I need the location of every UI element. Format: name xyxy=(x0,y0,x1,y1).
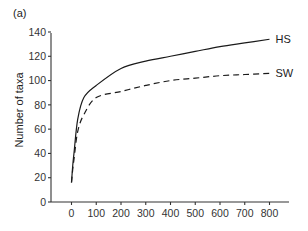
y-tick-label: 120 xyxy=(28,50,46,62)
x-tick-label: 0 xyxy=(69,207,75,219)
panel-label: (a) xyxy=(13,7,26,19)
y-axis-label: Number of taxa xyxy=(13,72,25,148)
line-chart: (a) Number of taxa 020406080100120140 01… xyxy=(0,0,308,231)
y-tick-label: 80 xyxy=(34,99,46,111)
series-line-hs xyxy=(72,39,270,182)
y-axis: 020406080100120140 xyxy=(28,26,51,208)
y-tick-label: 0 xyxy=(40,196,46,208)
x-tick-label: 100 xyxy=(87,207,105,219)
x-tick-label: 800 xyxy=(261,207,279,219)
x-tick-label: 600 xyxy=(211,207,229,219)
y-tick-label: 20 xyxy=(34,171,46,183)
x-tick-label: 200 xyxy=(112,207,130,219)
y-tick-label: 60 xyxy=(34,123,46,135)
series-label-sw: SW xyxy=(276,67,294,79)
y-tick-label: 40 xyxy=(34,147,46,159)
x-tick-label: 700 xyxy=(236,207,254,219)
series-layer xyxy=(72,39,270,182)
series-label-hs: HS xyxy=(276,33,291,45)
x-tick-label: 300 xyxy=(137,207,155,219)
series-line-sw xyxy=(72,73,270,182)
x-axis: 0100200300400500600700800 xyxy=(51,202,289,219)
x-tick-label: 500 xyxy=(186,207,204,219)
y-tick-label: 140 xyxy=(28,26,46,38)
series-labels: HSSW xyxy=(276,33,294,79)
y-tick-label: 100 xyxy=(28,74,46,86)
x-tick-label: 400 xyxy=(162,207,180,219)
